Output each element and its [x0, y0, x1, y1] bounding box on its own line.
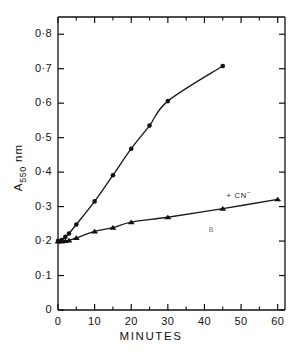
y-tick-label: 0·6 — [18, 96, 52, 108]
axis-ticks — [58, 17, 285, 310]
data-point-triangle — [274, 197, 281, 202]
y-axis-title-unit: nm — [12, 144, 24, 162]
axes-frame — [58, 17, 285, 310]
data-point-circle — [111, 173, 116, 178]
x-tick-label: 40 — [191, 315, 217, 327]
x-tick-label: 60 — [265, 315, 291, 327]
chart-figure: A550 nm MINUTES 00·10·20·30·40·50·60·70·… — [0, 0, 302, 354]
data-point-circle — [129, 146, 134, 151]
y-tick-label: 0 — [18, 303, 52, 315]
y-tick-label: 0·5 — [18, 131, 52, 143]
annotation-cn-label: + CN− — [226, 189, 251, 200]
y-tick-label: 0·3 — [18, 200, 52, 212]
y-tick-label: 0·2 — [18, 234, 52, 246]
annotation-cn-text: + CN — [226, 190, 247, 199]
data-series-group — [55, 64, 282, 244]
annotation-b-label: B — [209, 226, 214, 233]
y-tick-label: 0·4 — [18, 165, 52, 177]
data-point-circle — [67, 231, 72, 236]
y-tick-label: 0·1 — [18, 269, 52, 281]
x-tick-label: 30 — [155, 315, 181, 327]
x-tick-label: 0 — [45, 315, 71, 327]
data-point-circle — [74, 222, 79, 227]
x-axis-title: MINUTES — [0, 330, 302, 342]
data-point-circle — [220, 64, 225, 69]
series-line-1 — [58, 66, 223, 241]
y-tick-label: 0·7 — [18, 62, 52, 74]
data-point-circle — [92, 199, 97, 204]
y-tick-label: 0·8 — [18, 27, 52, 39]
data-point-circle — [147, 123, 152, 128]
x-tick-label: 50 — [228, 315, 254, 327]
x-tick-label: 10 — [82, 315, 108, 327]
y-axis-title-base: A — [12, 183, 24, 192]
annotation-cn-charge: − — [247, 189, 251, 195]
data-point-circle — [166, 99, 171, 104]
x-tick-label: 20 — [118, 315, 144, 327]
